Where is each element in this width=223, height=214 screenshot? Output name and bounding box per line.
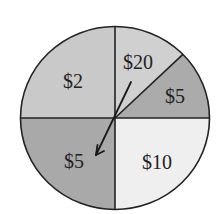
prize-spinner: $2 $20 $5 $10 $5 — [0, 0, 223, 214]
label-20-dollars: $20 — [123, 51, 153, 73]
label-2-dollars: $2 — [63, 70, 83, 92]
label-10-dollars: $10 — [142, 151, 172, 173]
label-5-dollars-right: $5 — [165, 85, 185, 107]
label-5-dollars-left: $5 — [64, 150, 84, 172]
